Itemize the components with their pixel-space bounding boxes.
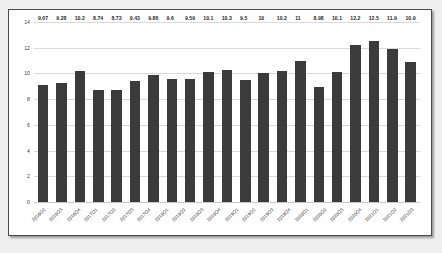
bar-slot: 10.3 (218, 22, 236, 202)
bar[interactable]: 10.1 (203, 72, 213, 202)
bar-slot: 12.5 (365, 22, 383, 202)
x-axis-tick-label: 2021Q1 (364, 207, 380, 223)
x-axis-tick-label: 2017Q2 (101, 207, 117, 223)
y-axis-tick-label: 6 (27, 122, 30, 128)
bar-slot: 9.86 (144, 22, 162, 202)
x-axis-tick-label: 2020Q1 (294, 207, 310, 223)
bar-value-label: 10.2 (277, 15, 287, 21)
bar[interactable]: 12.2 (350, 45, 360, 202)
bar-slot: 9.43 (126, 22, 144, 202)
bar-value-label: 9.28 (56, 15, 66, 21)
bar-slot: 9.07 (34, 22, 52, 202)
bar-slot: 9.5 (236, 22, 254, 202)
x-axis-tick-label: 2020Q4 (347, 207, 363, 223)
bar-value-label: 12.5 (369, 15, 379, 21)
bar-value-label: 10.2 (75, 15, 85, 21)
x-label-slot: 2017Q3 (122, 204, 140, 253)
y-axis-tick-label: 8 (27, 96, 30, 102)
bar[interactable]: 9.43 (130, 81, 140, 202)
bar-slot: 9.28 (52, 22, 70, 202)
x-axis-tick-label: 2016Q2 (31, 207, 47, 223)
bar-value-label: 8.74 (93, 15, 103, 21)
bar[interactable]: 9.86 (148, 75, 158, 202)
x-axis-tick-label: 2016Q3 (48, 207, 64, 223)
x-label-slot: 2021Q3 (402, 204, 420, 253)
x-axis-tick-label: 2019Q1 (224, 207, 240, 223)
bar[interactable]: 11.9 (387, 49, 397, 202)
bar[interactable]: 12.5 (369, 41, 379, 202)
bar-slot: 12.2 (346, 22, 364, 202)
bar[interactable]: 9.5 (240, 80, 250, 202)
bar[interactable]: 8.73 (111, 90, 121, 202)
bar[interactable]: 10.2 (75, 71, 85, 202)
bar[interactable]: 9.59 (185, 79, 195, 202)
bar[interactable]: 8.74 (93, 90, 103, 202)
x-axis-tick-label: 2019Q3 (259, 207, 275, 223)
bar-slot: 9.6 (163, 22, 181, 202)
y-axis-tick-label: 10 (24, 70, 30, 76)
bar-slot: 10.9 (402, 22, 420, 202)
bar[interactable]: 10.9 (405, 62, 415, 202)
bar-value-label: 10.3 (222, 15, 232, 21)
x-label-slot: 2018Q3 (192, 204, 210, 253)
bar[interactable]: 10 (258, 73, 268, 202)
x-axis-tick-label: 2018Q3 (189, 207, 205, 223)
x-label-slot: 2019Q1 (227, 204, 245, 253)
bar-slot: 10 (255, 22, 273, 202)
x-label-slot: 2018Q1 (157, 204, 175, 253)
x-label-slot: 2019Q2 (245, 204, 263, 253)
bar-value-label: 9.6 (167, 15, 174, 21)
bar-value-label: 9.43 (130, 15, 140, 21)
x-axis-labels: 2016Q22016Q32016Q42017Q12017Q22017Q32017… (34, 204, 420, 253)
bar[interactable]: 10.1 (332, 72, 342, 202)
bar-value-label: 8.98 (314, 15, 324, 21)
bar-slot: 10.1 (328, 22, 346, 202)
x-label-slot: 2019Q3 (262, 204, 280, 253)
bar[interactable]: 9.07 (38, 85, 48, 202)
x-axis-tick-label: 2021Q3 (399, 207, 415, 223)
x-label-slot: 2021Q2 (385, 204, 403, 253)
x-label-slot: 2018Q2 (174, 204, 192, 253)
y-axis-tick-label: 14 (24, 19, 30, 25)
bar[interactable]: 11 (295, 61, 305, 202)
bar-value-label: 12.2 (350, 15, 360, 21)
x-axis-tick-label: 2017Q1 (83, 207, 99, 223)
x-label-slot: 2018Q4 (209, 204, 227, 253)
y-axis-tick-label: 2 (27, 173, 30, 179)
x-label-slot: 2020Q1 (297, 204, 315, 253)
bar-value-label: 11.9 (387, 15, 397, 21)
x-label-slot: 2016Q2 (34, 204, 52, 253)
x-axis-tick-label: 2016Q4 (66, 207, 82, 223)
x-label-slot: 2020Q3 (332, 204, 350, 253)
bar-series: 9.079.2810.28.748.739.439.869.69.5910.11… (34, 22, 420, 202)
x-axis-tick-label: 2021Q2 (382, 207, 398, 223)
x-axis-tick-label: 2020Q3 (329, 207, 345, 223)
bar-value-label: 8.73 (111, 15, 121, 21)
gridline: 0 (34, 202, 420, 203)
bar-slot: 10.2 (71, 22, 89, 202)
x-axis-tick-label: 2017Q3 (119, 207, 135, 223)
bar-slot: 11.9 (383, 22, 401, 202)
bar[interactable]: 8.98 (314, 87, 324, 202)
bar-value-label: 11 (295, 15, 300, 21)
bar[interactable]: 10.2 (277, 71, 287, 202)
bar-value-label: 10 (258, 15, 264, 21)
bar-slot: 11 (291, 22, 309, 202)
bar[interactable]: 10.3 (222, 70, 232, 202)
x-axis-tick-label: 2018Q2 (171, 207, 187, 223)
x-label-slot: 2016Q4 (69, 204, 87, 253)
y-axis-tick-label: 4 (27, 148, 30, 154)
bar[interactable]: 9.28 (56, 83, 66, 202)
bar-slot: 9.59 (181, 22, 199, 202)
x-axis-tick-label: 2018Q4 (206, 207, 222, 223)
bar-value-label: 9.59 (185, 15, 195, 21)
x-label-slot: 2020Q4 (350, 204, 368, 253)
bar-value-label: 9.07 (38, 15, 48, 21)
bar[interactable]: 9.6 (167, 79, 177, 202)
x-label-slot: 2016Q3 (52, 204, 70, 253)
bar-slot: 10.2 (273, 22, 291, 202)
bar-value-label: 10.1 (332, 15, 342, 21)
bar-slot: 10.1 (199, 22, 217, 202)
chart-frame: 02468101214 9.079.2810.28.748.739.439.86… (8, 9, 432, 236)
x-axis-tick-label: 2020Q2 (312, 207, 328, 223)
